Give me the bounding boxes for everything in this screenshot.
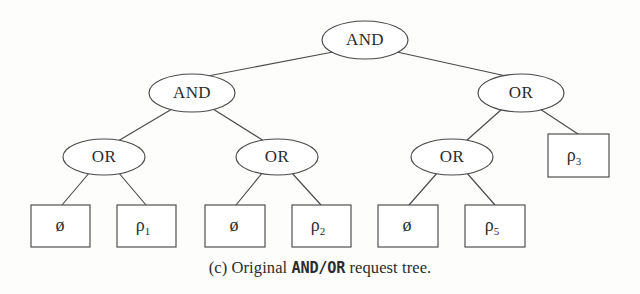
edge-root-to-and xyxy=(208,52,333,76)
node-label: OR xyxy=(509,83,534,102)
edge-or-to-rho3 xyxy=(540,109,578,134)
edge-and-to-or-2 xyxy=(213,109,264,141)
leaf-label: ø xyxy=(230,215,239,235)
leaf-empty-2: ø xyxy=(205,205,265,247)
leaf-label: ø xyxy=(403,215,412,235)
edge-or1-to-empty-1 xyxy=(62,172,90,205)
node-label: OR xyxy=(440,147,465,166)
figure-caption: (c) Original AND/OR request tree. xyxy=(0,258,640,278)
edge-and-to-or-1 xyxy=(118,109,172,141)
edge-root-to-or xyxy=(397,52,506,76)
leaf-label: ø xyxy=(56,215,65,235)
edge-or3-to-empty-3 xyxy=(409,172,438,205)
node-label: AND xyxy=(173,83,211,102)
caption-suffix: request tree. xyxy=(345,258,431,277)
node-label: OR xyxy=(265,147,290,166)
caption-emphasis: AND/OR xyxy=(292,259,346,277)
edge-or1-to-rho1 xyxy=(118,172,146,205)
leaf-empty-1: ø xyxy=(31,205,90,247)
leaf-rho-3: ρ3 xyxy=(548,134,609,177)
leaf-rho-5: ρ5 xyxy=(465,205,525,247)
leaf-rho-1: ρ1 xyxy=(117,205,176,247)
leaf-empty-3: ø xyxy=(378,205,438,247)
node-or-3: OR xyxy=(411,139,493,175)
node-label: AND xyxy=(346,30,384,49)
edge-or3-to-rho5 xyxy=(466,172,495,205)
node-and-left: AND xyxy=(149,74,235,112)
tree-edges xyxy=(62,52,578,205)
edge-or2-to-rho2 xyxy=(291,172,321,205)
and-or-tree-diagram: AND AND OR OR OR OR ρ3 xyxy=(0,0,640,294)
node-or-right: OR xyxy=(478,74,564,112)
node-root-and: AND xyxy=(322,21,408,59)
node-or-1: OR xyxy=(63,139,145,175)
leaf-rho-2: ρ2 xyxy=(292,205,351,247)
node-label: OR xyxy=(92,147,117,166)
figure-container: AND AND OR OR OR OR ρ3 xyxy=(0,0,640,294)
node-or-2: OR xyxy=(236,139,318,175)
caption-prefix: (c) Original xyxy=(209,258,292,277)
edge-or-to-or-3 xyxy=(466,109,502,141)
edge-or2-to-empty-2 xyxy=(236,172,263,205)
